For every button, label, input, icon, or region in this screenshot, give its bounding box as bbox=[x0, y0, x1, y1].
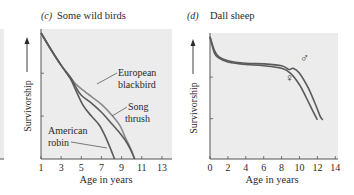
male-symbol: ♂ bbox=[300, 51, 309, 65]
x-tick-label: 1 bbox=[39, 162, 44, 173]
x-tick-label: 11 bbox=[137, 162, 147, 173]
panel-title: Dall sheep bbox=[210, 10, 255, 21]
x-tick-label: 0 bbox=[208, 162, 213, 173]
panel-dall-sheep: (d) Dall sheep 02468101214 ♂ ♀ Age in ye… bbox=[187, 10, 340, 185]
x-tick-label: 14 bbox=[330, 162, 340, 173]
x-tick-label: 9 bbox=[119, 162, 124, 173]
x-tick-label: 5 bbox=[79, 162, 84, 173]
x-tick-label: 8 bbox=[279, 162, 284, 173]
x-tick-label: 6 bbox=[261, 162, 266, 173]
plot-area bbox=[210, 33, 338, 159]
x-tick-label: 10 bbox=[295, 162, 305, 173]
figure: (c) Some wild birds 135791113 European b… bbox=[0, 0, 354, 195]
label-american-robin-line2: robin bbox=[48, 137, 69, 148]
x-tick-label: 13 bbox=[157, 162, 167, 173]
x-tick-label: 12 bbox=[312, 162, 322, 173]
label-song-thrush-line1: Song bbox=[128, 101, 149, 112]
x-axis-label: Age in years bbox=[245, 174, 298, 185]
previous-panel-fragment bbox=[0, 29, 4, 159]
label-european-blackbird-line1: European bbox=[118, 67, 156, 78]
x-tick-label: 4 bbox=[243, 162, 248, 173]
y-axis-label: Survivorship bbox=[188, 82, 199, 134]
x-axis-label: Age in years bbox=[79, 174, 132, 185]
label-european-blackbird-line2: blackbird bbox=[118, 79, 156, 90]
panel-title: Some wild birds bbox=[57, 10, 126, 21]
arrow-up-icon bbox=[25, 37, 30, 44]
panel-wild-birds: (c) Some wild birds 135791113 European b… bbox=[22, 10, 172, 185]
arrow-up-icon bbox=[191, 39, 196, 46]
y-axis-label-group: Survivorship bbox=[188, 39, 199, 134]
figure-svg: (c) Some wild birds 135791113 European b… bbox=[0, 0, 354, 195]
label-song-thrush-line2: thrush bbox=[125, 113, 150, 124]
label-american-robin-line1: American bbox=[48, 125, 87, 136]
female-symbol: ♀ bbox=[285, 71, 294, 85]
panel-label: (d) bbox=[187, 10, 199, 22]
x-tick-label: 3 bbox=[59, 162, 64, 173]
y-axis-label: Survivorship bbox=[22, 80, 33, 132]
x-tick-label: 2 bbox=[225, 162, 230, 173]
y-axis-label-group: Survivorship bbox=[22, 37, 33, 132]
x-tick-label: 7 bbox=[99, 162, 104, 173]
panel-label: (c) bbox=[41, 10, 53, 22]
